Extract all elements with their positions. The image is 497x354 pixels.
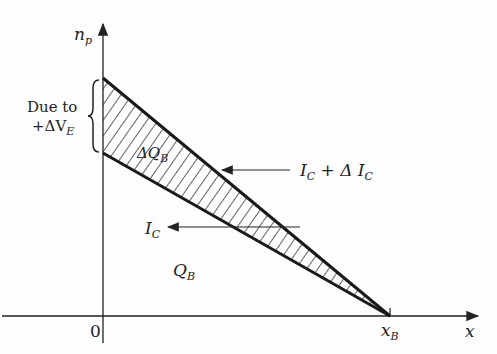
brace-icon [88,80,99,152]
origin-label: 0 [90,323,101,340]
ic-delta-label: IC + Δ IC [300,162,373,182]
brace-label-line2: +ΔVE [32,119,74,137]
diagram-canvas: np Due to +ΔVE ΔQB IC + Δ IC IC QB 0 xB … [0,0,497,354]
upper-profile-line [103,78,390,316]
qb-label: QB [173,262,195,282]
x-axis-label: x [465,323,475,340]
brace-label-line1: Due to [27,100,77,115]
diagram-graphics [0,0,497,354]
delta-qb-label: ΔQB [137,146,168,164]
xb-label: xB [381,322,399,342]
y-axis-label: np [74,26,92,46]
ic-label: IC [145,220,160,240]
